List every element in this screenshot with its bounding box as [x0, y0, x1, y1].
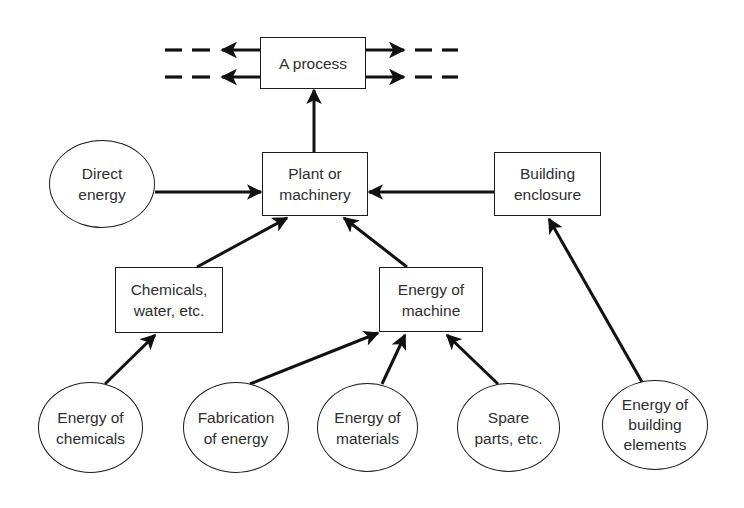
- node-process-label: A process: [279, 53, 347, 74]
- node-chemicals-line-2: water, etc.: [134, 300, 205, 321]
- node-building-enclosure-line-1: Building: [520, 163, 575, 184]
- node-plant-line-1: Plant or: [288, 163, 341, 184]
- node-materials-line-2: materials: [336, 428, 399, 449]
- node-building-enclosure: Building enclosure: [494, 152, 601, 216]
- node-direct-energy-line-2: energy: [78, 184, 125, 205]
- node-process: A process: [260, 37, 366, 89]
- node-machine-line-2: machine: [402, 300, 461, 321]
- arrow-fabrication-to-machine: [250, 333, 378, 384]
- node-materials-line-1: Energy of: [334, 407, 400, 428]
- node-building-enclosure-line-2: enclosure: [514, 184, 581, 205]
- arrow-materials-to-machine: [382, 335, 405, 384]
- node-energy-of-building-elements: Energy of building elements: [602, 380, 708, 470]
- process-outflow-right: [365, 50, 458, 77]
- node-chemicals-water: Chemicals, water, etc.: [115, 267, 223, 333]
- node-chemicals-line-1: Chemicals,: [131, 279, 208, 300]
- node-fabrication-of-energy: Fabrication of energy: [183, 382, 289, 473]
- node-fabrication-line-1: Fabrication: [198, 407, 275, 428]
- node-energy-of-machine: Energy of machine: [379, 267, 483, 332]
- arrow-building-elements-to-enclosure: [549, 219, 642, 382]
- node-spare-parts-line-2: parts, etc.: [474, 428, 542, 449]
- node-direct-energy-line-1: Direct: [82, 163, 122, 184]
- node-fabrication-line-2: of energy: [204, 428, 269, 449]
- node-plant-or-machinery: Plant or machinery: [262, 152, 368, 216]
- node-building-elements-line-3: elements: [624, 435, 687, 455]
- node-building-elements-line-2: building: [628, 415, 681, 435]
- node-energy-of-chemicals: Energy of chemicals: [38, 382, 143, 473]
- node-spare-parts: Spare parts, etc.: [457, 383, 560, 472]
- node-building-elements-line-1: Energy of: [622, 395, 688, 415]
- arrow-spare-parts-to-machine: [447, 335, 498, 384]
- node-machine-line-1: Energy of: [398, 279, 464, 300]
- node-energy-of-materials: Energy of materials: [317, 383, 418, 472]
- arrow-chemicals-to-plant: [197, 218, 287, 267]
- node-energy-chemicals-line-2: chemicals: [56, 428, 125, 449]
- node-energy-chemicals-line-1: Energy of: [57, 407, 123, 428]
- process-outflow-left: [165, 50, 261, 77]
- node-plant-line-2: machinery: [279, 184, 351, 205]
- node-direct-energy: Direct energy: [49, 140, 155, 228]
- arrow-machine-to-plant: [344, 218, 407, 267]
- node-spare-parts-line-1: Spare: [488, 407, 529, 428]
- arrow-energy-chemicals-to-chemicals: [105, 335, 155, 384]
